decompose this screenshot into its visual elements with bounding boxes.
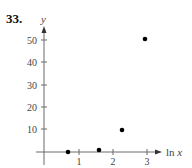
y-tick-label: 10 [27,124,37,135]
y-tick-label: 30 [27,80,37,91]
data-point [120,128,125,133]
y-axis-label: y [40,13,46,25]
y-tick-label: 40 [27,57,37,68]
data-points [66,37,148,155]
x-tick-label: 2 [111,156,116,167]
y-axis-arrow-icon [42,26,47,33]
x-axis-label-prefix: ln [166,146,177,158]
data-point [143,37,148,42]
x-axis-label: ln x [166,146,182,158]
x-tick-label: 1 [77,156,82,167]
scatter-plot: y ln x 50 40 30 20 10 1 2 3 [0,0,192,168]
x-axis-arrow-icon [155,150,162,155]
y-tick-label: 20 [27,102,37,113]
data-point [66,150,71,155]
x-tick-label: 3 [145,156,150,167]
x-axis-label-var: x [176,146,182,158]
data-point [97,148,102,153]
y-tick-label: 50 [27,35,37,46]
